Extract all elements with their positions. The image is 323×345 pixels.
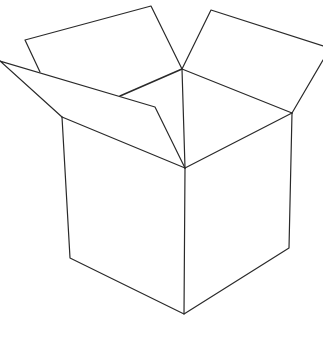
inner-corner-edge (182, 69, 185, 168)
box-front-corner (184, 168, 185, 314)
open-box-illustration (0, 0, 323, 345)
front-right-rim (185, 113, 292, 168)
box-body-outline (62, 113, 292, 314)
box-drawing (0, 0, 323, 345)
